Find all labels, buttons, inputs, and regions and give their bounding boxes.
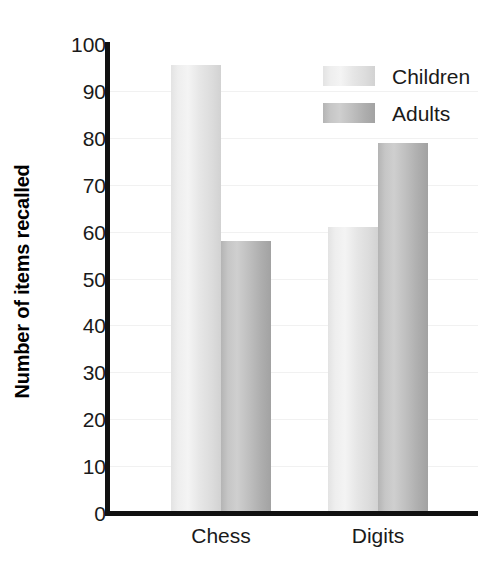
y-tick-label: 30 [48,362,106,383]
y-tick-label: 100 [48,34,106,55]
x-axis-line [105,511,478,516]
gridline [110,138,478,139]
bar-chart: Number of items recalled 010203040506070… [0,0,497,563]
y-tick-label: 80 [48,127,106,148]
bar-chess-adults [221,241,271,513]
bar-chess-children [171,65,221,513]
y-tick-label: 20 [48,409,106,430]
plot-area: ChildrenAdults [110,44,478,513]
y-tick-label: 90 [48,80,106,101]
y-tick-label: 60 [48,221,106,242]
y-tick-label: 10 [48,456,106,477]
y-tick-label: 40 [48,315,106,336]
y-tick-label: 0 [48,503,106,524]
legend-swatch-adults [323,103,375,123]
y-axis-title: Number of items recalled [0,0,44,563]
legend-item: Adults [323,97,470,129]
legend-swatch-children [323,66,375,86]
y-axis-tick-labels: 0102030405060708090100 [44,0,106,563]
x-tick-label: Chess [191,524,251,548]
x-tick-label: Digits [352,524,405,548]
y-tick-label: 70 [48,174,106,195]
chart-legend: ChildrenAdults [323,60,470,134]
bar-digits-adults [378,143,428,514]
bar-digits-children [328,227,378,513]
legend-label: Adults [392,103,450,124]
y-axis-line [105,42,110,515]
legend-label: Children [392,66,470,87]
legend-item: Children [323,60,470,92]
y-tick-label: 50 [48,268,106,289]
